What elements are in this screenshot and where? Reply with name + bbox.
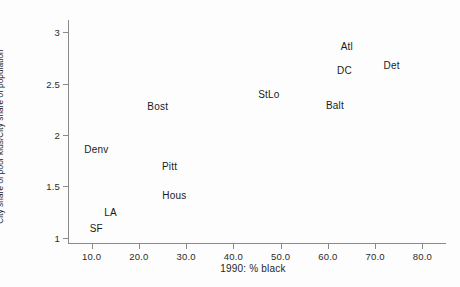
x-axis-tick xyxy=(328,244,329,249)
y-axis-tick-label: 1.5 xyxy=(30,181,60,192)
y-axis-tick xyxy=(63,32,68,33)
data-point-label: Pitt xyxy=(162,160,177,171)
y-axis-tick-label: 3 xyxy=(30,27,60,38)
data-point-label: StLo xyxy=(258,88,279,99)
y-axis-tick xyxy=(63,186,68,187)
x-axis-tick-label: 40.0 xyxy=(224,251,243,262)
x-axis-tick xyxy=(186,244,187,249)
data-point-label: LA xyxy=(104,207,117,218)
x-axis-tick xyxy=(92,244,93,249)
data-point-label: Hous xyxy=(162,189,186,200)
x-axis-tick-label: 70.0 xyxy=(365,251,384,262)
data-point-label: Atl xyxy=(341,40,353,51)
x-axis-tick-label: 60.0 xyxy=(318,251,337,262)
y-axis-title: City share of poor kids/City share of po… xyxy=(0,22,5,252)
x-axis-tick xyxy=(281,244,282,249)
x-axis-tick-label: 50.0 xyxy=(271,251,290,262)
x-axis-tick xyxy=(422,244,423,249)
data-point-label: DC xyxy=(337,65,352,76)
y-axis-tick xyxy=(63,135,68,136)
data-point-label: Det xyxy=(384,60,400,71)
x-axis-tick xyxy=(233,244,234,249)
y-axis-tick xyxy=(63,238,68,239)
y-axis-line xyxy=(68,20,69,244)
y-axis-tick xyxy=(63,84,68,85)
x-axis-tick-label: 30.0 xyxy=(176,251,195,262)
y-axis-tick-label: 2.5 xyxy=(30,78,60,89)
scatter-plot-figure: 10.020.030.040.050.060.070.080.011.522.5… xyxy=(0,0,460,287)
data-point-label: SF xyxy=(90,222,103,233)
x-axis-tick-label: 80.0 xyxy=(413,251,432,262)
y-axis-tick-label: 2 xyxy=(30,130,60,141)
x-axis-tick-label: 20.0 xyxy=(129,251,148,262)
y-axis-tick-label: 1 xyxy=(30,232,60,243)
data-point-label: Bost xyxy=(147,101,168,112)
x-axis-tick xyxy=(139,244,140,249)
data-point-label: Denv xyxy=(84,144,108,155)
x-axis-title: 1990: % black xyxy=(220,263,285,274)
x-axis-tick xyxy=(375,244,376,249)
data-point-label: Balt xyxy=(326,100,344,111)
x-axis-line xyxy=(68,243,446,244)
x-axis-tick-label: 10.0 xyxy=(82,251,101,262)
